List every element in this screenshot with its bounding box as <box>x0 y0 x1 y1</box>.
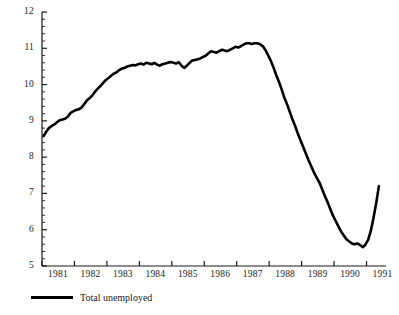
x-tick-label: 1985 <box>171 269 205 279</box>
chart-plot-area <box>0 0 399 315</box>
x-tick-label: 1986 <box>203 269 237 279</box>
y-tick-label: 10 <box>8 79 34 89</box>
data-line-total-unemployed <box>44 43 379 247</box>
y-tick-label: 8 <box>8 151 34 161</box>
x-tick-label: 1988 <box>268 269 302 279</box>
x-tick-label: 1982 <box>73 269 107 279</box>
x-tick-label: 1983 <box>106 269 140 279</box>
y-tick-label: 9 <box>8 115 34 125</box>
x-axis-ticks <box>42 261 367 266</box>
y-axis-ticks <box>42 12 47 266</box>
x-tick-label: 1991 <box>366 269 399 279</box>
x-tick-label: 1990 <box>333 269 367 279</box>
y-tick-label: 12 <box>8 6 34 16</box>
y-tick-label: 7 <box>8 187 34 197</box>
x-tick-label: 1984 <box>138 269 172 279</box>
x-tick-label: 1981 <box>41 269 75 279</box>
y-tick-label: 6 <box>8 224 34 234</box>
chart-axes <box>42 12 386 266</box>
x-tick-label: 1987 <box>236 269 270 279</box>
legend-line-swatch <box>31 296 73 299</box>
y-tick-label: 5 <box>8 260 34 270</box>
data-series-group <box>44 43 379 247</box>
y-tick-label: 11 <box>8 42 34 52</box>
legend-label: Total unemployed <box>80 292 152 303</box>
x-tick-label: 1989 <box>301 269 335 279</box>
chart-legend: Total unemployed <box>31 292 152 303</box>
chart-figure: 56789101112 1981198219831984198519861987… <box>0 0 399 315</box>
